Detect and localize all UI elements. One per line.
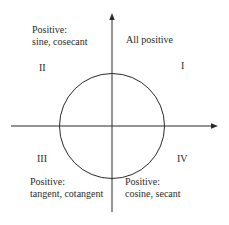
quadrant-sign-diagram: Positive: sine, cosecant II All positive… [0, 0, 229, 225]
quadrant-1-note-line-1: All positive [126, 34, 173, 46]
quadrant-3-note-line-1: Positive: [30, 176, 103, 188]
quadrant-2-note-line-1: Positive: [32, 24, 88, 36]
quadrant-2-label: II [39, 62, 46, 74]
quadrant-4-note-line-1: Positive: [125, 176, 181, 188]
quadrant-4-label: IV [177, 153, 188, 165]
quadrant-3-note-line-2: tangent, cotangent [30, 188, 103, 200]
quadrant-4-note: Positive: cosine, secant [125, 176, 181, 200]
quadrant-2-note: Positive: sine, cosecant [32, 24, 88, 48]
quadrant-3-label: III [37, 153, 47, 165]
y-axis-arrow-icon [109, 13, 114, 20]
quadrant-2-note-line-2: sine, cosecant [32, 36, 88, 48]
quadrant-3-note: Positive: tangent, cotangent [30, 176, 103, 200]
quadrant-4-note-line-2: cosine, secant [125, 188, 181, 200]
quadrant-1-label: I [181, 60, 184, 72]
x-axis-arrow-icon [211, 123, 218, 128]
quadrant-1-note: All positive [126, 34, 173, 46]
